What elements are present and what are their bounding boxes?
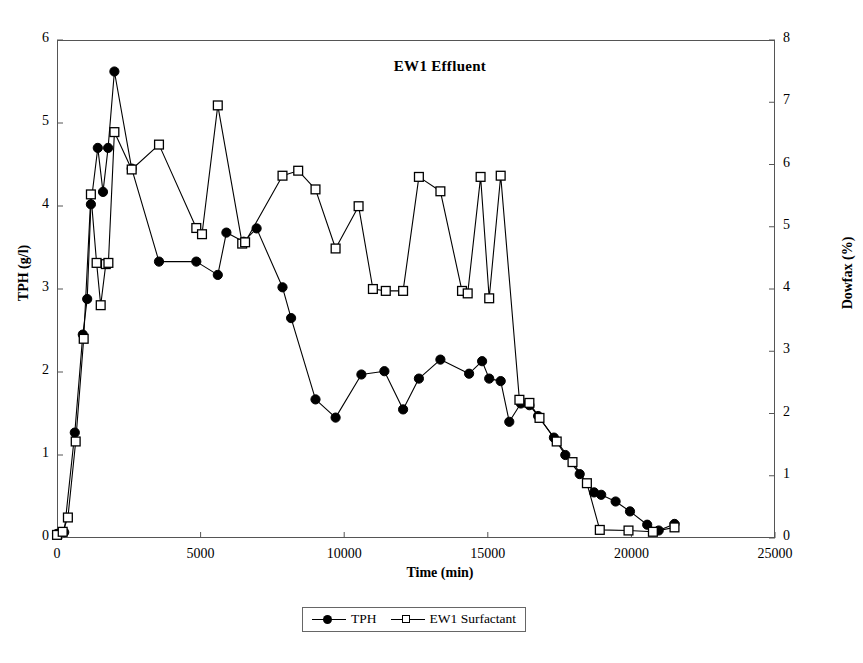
data-point-marker-open-square-icon [213, 101, 222, 110]
data-point-marker-open-square-icon [515, 395, 524, 404]
data-point-marker-open-square-icon [294, 166, 303, 175]
data-point-marker-filled-circle-icon [357, 370, 366, 379]
data-point-marker-filled-circle-icon [414, 374, 423, 383]
data-point-marker-open-square-icon [525, 399, 534, 408]
data-point-marker-filled-circle-icon [380, 367, 389, 376]
data-point-marker-open-square-icon [58, 527, 67, 536]
data-point-marker-open-square-icon [92, 259, 101, 268]
data-point-marker-open-square-icon [583, 479, 592, 488]
data-point-marker-open-square-icon [624, 526, 633, 535]
legend-item-ew1-surfactant: EW1 Surfactant [391, 611, 517, 627]
data-point-marker-filled-circle-icon [496, 377, 505, 386]
data-point-marker-filled-circle-icon [331, 413, 340, 422]
series-line-tph [57, 72, 675, 534]
data-point-marker-open-square-icon [110, 128, 119, 137]
data-point-marker-open-square-icon [311, 185, 320, 194]
data-point-marker-filled-circle-icon [311, 395, 320, 404]
data-point-marker-open-square-icon [476, 173, 485, 182]
data-point-marker-open-square-icon [496, 171, 505, 180]
data-point-marker-open-square-icon [354, 202, 363, 211]
chart-legend: TPH EW1 Surfactant [302, 607, 526, 632]
data-point-marker-open-square-icon [241, 238, 250, 247]
legend-marker-filled-circle-icon [312, 614, 346, 625]
legend-item-tph: TPH [312, 611, 377, 627]
data-point-marker-open-square-icon [198, 230, 207, 239]
data-point-marker-open-square-icon [552, 437, 561, 446]
data-point-marker-filled-circle-icon [98, 187, 107, 196]
data-point-marker-filled-circle-icon [485, 374, 494, 383]
data-point-marker-filled-circle-icon [505, 417, 514, 426]
data-point-marker-filled-circle-icon [597, 490, 606, 499]
chart-figure: EW1 Effluent TPH (g/l) Dowfax (%) Time (… [0, 0, 863, 663]
data-point-marker-filled-circle-icon [154, 257, 163, 266]
data-point-marker-open-square-icon [64, 513, 73, 522]
data-point-marker-open-square-icon [568, 458, 577, 467]
data-point-marker-filled-circle-icon [110, 67, 119, 76]
data-point-marker-filled-circle-icon [278, 283, 287, 292]
legend-label-ew1-surfactant: EW1 Surfactant [430, 611, 517, 627]
data-point-marker-filled-circle-icon [287, 314, 296, 323]
data-point-marker-open-square-icon [87, 190, 96, 199]
data-point-marker-open-square-icon [369, 285, 378, 294]
data-point-marker-open-square-icon [415, 173, 424, 182]
data-point-marker-filled-circle-icon [625, 507, 634, 516]
data-point-marker-open-square-icon [155, 140, 164, 149]
data-point-marker-filled-circle-icon [93, 143, 102, 152]
data-point-marker-open-square-icon [595, 526, 604, 535]
data-point-marker-open-square-icon [127, 165, 136, 174]
data-point-marker-filled-circle-icon [83, 294, 92, 303]
data-point-marker-filled-circle-icon [222, 228, 231, 237]
data-point-marker-open-square-icon [485, 294, 494, 303]
data-point-marker-open-square-icon [399, 287, 408, 296]
data-series-layer [0, 0, 863, 663]
legend-label-tph: TPH [351, 611, 377, 627]
data-point-marker-filled-circle-icon [611, 497, 620, 506]
data-point-marker-filled-circle-icon [436, 355, 445, 364]
data-point-marker-open-square-icon [71, 437, 80, 446]
data-point-marker-open-square-icon [436, 187, 445, 196]
data-point-marker-open-square-icon [79, 334, 88, 343]
data-point-marker-filled-circle-icon [399, 405, 408, 414]
data-point-marker-open-square-icon [649, 527, 658, 536]
data-point-marker-open-square-icon [670, 523, 679, 532]
data-point-marker-filled-circle-icon [70, 428, 79, 437]
data-point-marker-filled-circle-icon [104, 143, 113, 152]
data-point-marker-open-square-icon [331, 244, 340, 253]
data-point-marker-filled-circle-icon [465, 369, 474, 378]
data-point-marker-filled-circle-icon [478, 357, 487, 366]
data-point-marker-filled-circle-icon [192, 257, 201, 266]
data-point-marker-filled-circle-icon [213, 270, 222, 279]
legend-marker-open-square-icon [391, 614, 425, 625]
data-point-marker-open-square-icon [535, 414, 544, 423]
data-point-marker-open-square-icon [463, 289, 472, 298]
data-point-marker-open-square-icon [96, 301, 105, 310]
data-point-marker-open-square-icon [278, 171, 287, 180]
data-point-marker-open-square-icon [381, 287, 390, 296]
data-point-marker-open-square-icon [104, 259, 113, 268]
